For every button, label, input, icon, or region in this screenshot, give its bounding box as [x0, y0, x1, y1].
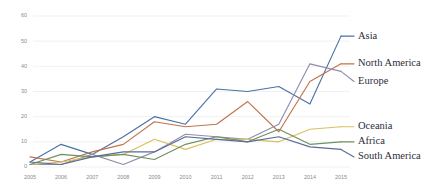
- y-axis-tick-label: 0: [24, 163, 27, 169]
- series-inline-labels: AsiaNorth AmericaEuropeOceaniaAfricaSout…: [358, 30, 421, 162]
- series-label-oceania: Oceania: [358, 120, 393, 131]
- y-axis-tick-labels: 0102030405060: [21, 12, 27, 169]
- series-label-europe: Europe: [358, 75, 389, 86]
- series-line-south-america: [30, 137, 341, 165]
- x-axis-tick-label: 2006: [55, 174, 67, 180]
- y-axis-tick-label: 60: [21, 12, 27, 18]
- x-axis-tick-label: 2009: [148, 174, 160, 180]
- series-label-asia: Asia: [358, 30, 378, 41]
- x-axis-tick-label: 2005: [24, 174, 36, 180]
- x-axis-tick-label: 2008: [117, 174, 129, 180]
- line-chart: 0102030405060 20052006200720082009201020…: [0, 0, 443, 194]
- y-axis-tick-label: 30: [21, 88, 27, 94]
- x-axis-tick-label: 2010: [180, 174, 192, 180]
- x-axis-tick-label: 2011: [211, 174, 223, 180]
- y-axis-tick-label: 50: [21, 38, 27, 44]
- series-line-north-america: [30, 64, 341, 162]
- y-axis-tick-label: 40: [21, 63, 27, 69]
- series-label-south-america: South America: [358, 150, 421, 161]
- series-lines: [30, 36, 341, 164]
- series-line-oceania: [30, 127, 341, 165]
- series-label-africa: Africa: [358, 135, 385, 146]
- x-axis-tick-label: 2007: [86, 174, 98, 180]
- series-line-asia: [30, 36, 341, 162]
- series-leader-lines: [341, 36, 354, 157]
- x-axis-tick-label: 2013: [273, 174, 285, 180]
- chart-plot-area: 0102030405060 20052006200720082009201020…: [0, 0, 443, 194]
- x-axis-tick-labels: 2005200620072008200920102011201220132014…: [24, 174, 347, 180]
- x-axis-tick-label: 2012: [242, 174, 254, 180]
- series-label-north-america: North America: [358, 57, 421, 68]
- y-axis-tick-label: 10: [21, 138, 27, 144]
- y-axis-tick-label: 20: [21, 113, 27, 119]
- x-axis-tick-label: 2015: [335, 174, 347, 180]
- leader-line-europe: [341, 71, 354, 81]
- leader-line-south-america: [341, 149, 354, 157]
- x-axis-tick-label: 2014: [304, 174, 316, 180]
